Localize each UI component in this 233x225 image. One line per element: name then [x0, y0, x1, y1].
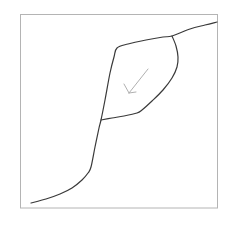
plot-background — [0, 0, 233, 225]
hysteresis-diagram — [0, 0, 233, 225]
figure-container — [0, 0, 233, 225]
